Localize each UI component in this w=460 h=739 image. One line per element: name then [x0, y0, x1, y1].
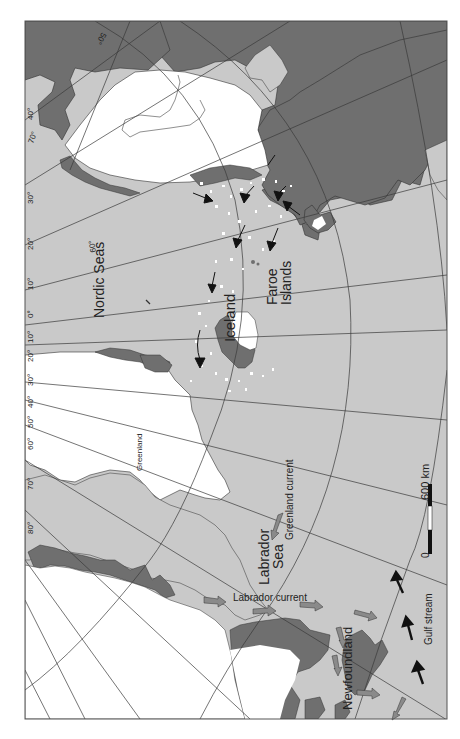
- label-newfoundland: Newfoundland: [340, 627, 355, 710]
- label-greenland: Greenland: [135, 434, 144, 471]
- label-iceland: Iceland: [221, 294, 238, 342]
- lon-label: 30°: [26, 374, 35, 386]
- map-figure: Nordic Seas Iceland Faroe Islands Greenl…: [0, 0, 460, 739]
- lon-label: 30°: [26, 192, 35, 204]
- label-labrador-current: Labrador current: [233, 592, 307, 603]
- scale-label-end: 600 km: [419, 464, 431, 500]
- lon-label: 50°: [26, 416, 35, 428]
- label-labrador-sea-line2: Sea: [270, 544, 286, 569]
- lon-label: 80°: [26, 522, 35, 534]
- scale-label-start: 0: [420, 552, 431, 558]
- label-faroe-line2: Islands: [278, 261, 294, 305]
- label-gulf-stream: Gulf stream: [423, 593, 434, 645]
- faroe-islands: [251, 260, 255, 264]
- lon-label: 10°: [26, 331, 35, 343]
- lon-label: 70°: [26, 478, 35, 490]
- lon-label: 40°: [26, 108, 35, 120]
- lon-label: 20°: [26, 350, 35, 362]
- faroe-islands-2: [257, 263, 260, 266]
- lon-label: 60°: [26, 438, 35, 450]
- lon-label: 20°: [26, 238, 35, 250]
- lon-label: 0°: [26, 310, 35, 318]
- label-greenland-current: Greenland current: [284, 459, 295, 540]
- lon-label: 10°: [26, 278, 35, 290]
- lon-label: 40°: [26, 396, 35, 408]
